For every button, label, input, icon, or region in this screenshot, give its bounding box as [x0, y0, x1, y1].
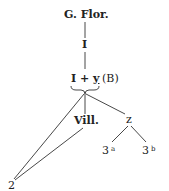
node-i-plus-y: I + y: [71, 73, 99, 84]
diagram-lines: [0, 0, 169, 191]
node-iy-y: y: [93, 72, 99, 85]
node-3a-sup: a: [111, 145, 115, 153]
node-i: I: [82, 39, 87, 50]
brace-under-iy: [71, 86, 99, 94]
node-b-label: (B): [102, 73, 119, 84]
node-iy-i: I: [71, 72, 76, 85]
edge-iy-z: [86, 94, 125, 114]
node-3b-sup: b: [151, 145, 155, 153]
node-iy-plus: +: [80, 72, 89, 85]
node-z: z: [126, 114, 132, 125]
node-g-flor: G. Flor.: [64, 9, 109, 20]
edge-z-3b: [131, 126, 146, 142]
node-3a: 3a: [102, 145, 115, 156]
node-2: 2: [8, 180, 15, 191]
stemma-diagram: G. Flor. I I + y (B) Vill. z 3a 3b 2: [0, 0, 169, 191]
edge-iy-2: [14, 94, 84, 179]
node-3b-number: 3: [142, 144, 149, 157]
node-3b: 3b: [142, 145, 155, 156]
node-3a-number: 3: [102, 144, 109, 157]
node-vill: Vill.: [74, 115, 99, 126]
edge-z-3a: [112, 126, 128, 142]
